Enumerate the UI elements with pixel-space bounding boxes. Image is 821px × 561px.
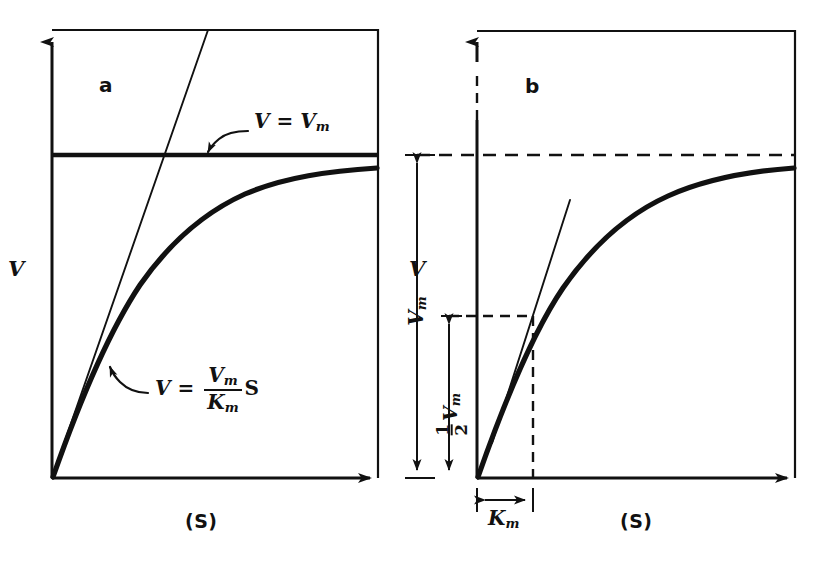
panel-b-vmax-label-subscript: m	[414, 296, 429, 310]
panel-a-slope-annotation: V = Vm Km S	[155, 365, 259, 414]
panel-a-slope-numerator: Vm	[204, 365, 241, 389]
panel-b-half-fraction-numerator: 1	[434, 424, 451, 436]
panel-a-x-axis-label: (S)	[185, 512, 218, 531]
panel-b-half-vmax-label-symbol: V	[439, 406, 461, 421]
panel-a-vmax-lhs: V	[254, 109, 270, 133]
panel-a-y-axis-label: V	[8, 258, 24, 279]
panel-a-vmax-rhs-subscript: m	[316, 119, 330, 134]
panel-b-letter: b	[525, 76, 539, 96]
panel-b-km-label-subscript: m	[505, 516, 519, 531]
panel-a-curve	[53, 168, 377, 477]
panel-a-slope-lhs: V	[155, 376, 171, 400]
panel-a-slope-leader-arrow	[110, 367, 148, 393]
panel-a-slope-equals: =	[178, 376, 195, 400]
panel-b-km-label-symbol: K	[488, 506, 505, 530]
panel-b-half-vmax-label-subscript: m	[448, 393, 463, 406]
panel-a-slope-denominator-symbol: K	[207, 390, 224, 414]
panel-a-letter: a	[99, 75, 113, 95]
panel-b-half-fraction-denominator: 2	[451, 424, 470, 436]
panel-b-half-vmax-dimension-label: 1 2 Vm	[434, 386, 471, 442]
panel-a-slope-denominator: Km	[204, 389, 241, 415]
panel-a-slope-numerator-subscript: m	[224, 373, 238, 388]
panel-a-slope-numerator-symbol: V	[208, 363, 224, 387]
panel-b-y-axis-label: V	[409, 258, 425, 279]
panel-b-half-fraction: 1 2	[434, 424, 471, 436]
panel-a-slope-fraction: Vm Km	[204, 365, 241, 414]
panel-b-curve	[478, 168, 794, 477]
panel-b-vmax-label-symbol: V	[404, 310, 428, 326]
panel-a-slope-denominator-subscript: m	[225, 400, 239, 415]
panel-a-slope-trailing: S	[245, 376, 259, 400]
panel-a-vmax-annotation: V = Vm	[254, 111, 330, 133]
panel-b-km-dimension-label: Km	[488, 508, 519, 530]
panel-a-vmax-equals: =	[277, 109, 294, 133]
panel-a-vmax-rhs: V	[300, 109, 316, 133]
panel-a-vmax-leader-arrow	[208, 131, 248, 152]
panel-b-x-axis-label: (S)	[620, 512, 653, 531]
panel-b-vmax-dimension-label: Vm	[406, 289, 428, 333]
figure-root: a V (S) V = Vm V = Vm Km S b V (S) Vm 1 …	[0, 0, 821, 561]
panel-b-frame	[477, 31, 795, 478]
